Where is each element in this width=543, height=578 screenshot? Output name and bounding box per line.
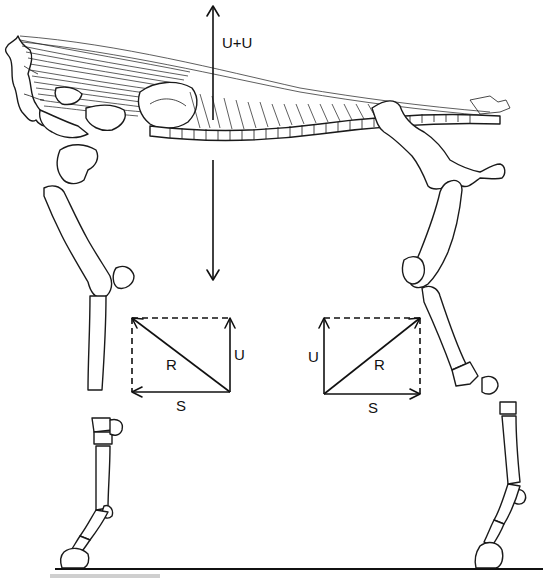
vertical-component-label: U — [308, 348, 319, 365]
caption-fragment — [50, 574, 160, 578]
resultant-arrow — [324, 318, 420, 394]
resultant-arrow — [132, 318, 230, 392]
vertical-component-label: U — [234, 346, 245, 363]
cervical-vertebrae — [40, 87, 126, 137]
nuchal-ligament — [20, 36, 490, 116]
horizontal-component-label: S — [176, 397, 186, 414]
horizontal-component-label: S — [368, 399, 378, 416]
horse-skeleton-force-diagram: U+U R U S R U S — [0, 0, 543, 578]
hindlimb — [402, 180, 525, 568]
forelimb-force-parallelogram: R U S — [132, 318, 245, 414]
vertical-force-arrows: U+U — [207, 6, 252, 280]
forelimb — [44, 145, 134, 568]
vertical-force-label: U+U — [222, 34, 252, 51]
spine — [150, 92, 500, 141]
resultant-label: R — [166, 356, 177, 373]
resultant-label: R — [374, 356, 385, 373]
hindlimb-force-parallelogram: R U S — [308, 318, 420, 416]
scapula — [138, 82, 196, 128]
horse-skeleton — [5, 36, 525, 568]
